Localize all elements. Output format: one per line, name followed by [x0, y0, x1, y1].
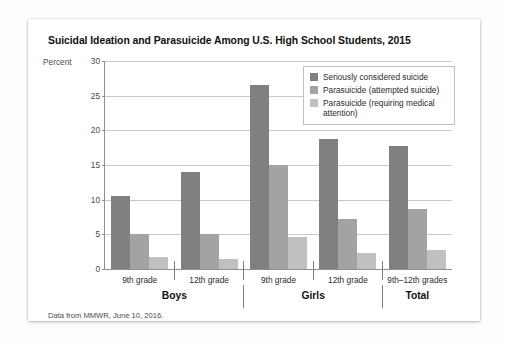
- source-note: Data from MMWR, June 10, 2016.: [48, 311, 163, 320]
- legend-item: Seriously considered suicide: [310, 72, 447, 82]
- legend-swatch: [310, 86, 318, 94]
- screenshot-root: Suicidal Ideation and Parasuicide Among …: [0, 0, 506, 342]
- y-axis-tick-label: 5: [95, 229, 100, 239]
- supergroup-label: Total: [383, 290, 452, 308]
- y-axis-tick-label: 25: [91, 91, 100, 101]
- bar: [149, 257, 168, 269]
- bar: [130, 234, 149, 269]
- chart-card: Suicidal Ideation and Parasuicide Among …: [28, 19, 480, 321]
- supergroup-divider: [382, 285, 383, 308]
- category-label: 9th–12th grades: [383, 275, 452, 289]
- legend-item: Parasuicide (attempted suicide): [310, 85, 447, 95]
- y-axis-tick-mark: [102, 269, 105, 270]
- legend-label: Parasuicide (requiring medical attention…: [323, 98, 447, 118]
- bar: [357, 253, 376, 269]
- y-axis-tick-label: 15: [91, 160, 100, 170]
- legend-label: Seriously considered suicide: [323, 72, 428, 82]
- legend-swatch: [310, 73, 318, 81]
- bar: [219, 259, 238, 269]
- supergroup-label: Girls: [244, 290, 383, 308]
- bar: [319, 139, 338, 269]
- bar: [338, 219, 357, 269]
- bar: [408, 209, 427, 269]
- category-label: 12th grade: [174, 275, 243, 289]
- bar: [389, 146, 408, 269]
- bar: [181, 172, 200, 269]
- category-labels: 9th grade12th grade9th grade12th grade9t…: [105, 275, 452, 289]
- bar: [200, 234, 219, 269]
- bar: [269, 165, 288, 269]
- legend-swatch: [310, 99, 318, 107]
- category-label: 12th grade: [313, 275, 382, 289]
- bar: [250, 85, 269, 269]
- y-axis-tick-label: 20: [91, 125, 100, 135]
- category-label: 9th grade: [244, 275, 313, 289]
- bar: [427, 250, 446, 269]
- bar-group: [105, 61, 174, 269]
- y-axis-label: Percent: [43, 57, 72, 67]
- chart-title: Suicidal Ideation and Parasuicide Among …: [48, 35, 411, 46]
- y-axis-tick-label: 30: [91, 56, 100, 66]
- y-axis-tick-label: 10: [91, 195, 100, 205]
- bar-group: [174, 61, 243, 269]
- bar: [111, 196, 130, 269]
- supergroup-divider: [243, 285, 244, 308]
- supergroup-labels: BoysGirlsTotal: [105, 290, 452, 308]
- bar: [288, 237, 307, 269]
- x-axis-line: [104, 269, 452, 270]
- category-label: 9th grade: [105, 275, 174, 289]
- chart-legend: Seriously considered suicideParasuicide …: [303, 66, 455, 125]
- legend-item: Parasuicide (requiring medical attention…: [310, 98, 447, 118]
- y-axis-tick-label: 0: [95, 264, 100, 274]
- supergroup-label: Boys: [105, 290, 244, 308]
- legend-label: Parasuicide (attempted suicide): [323, 85, 439, 95]
